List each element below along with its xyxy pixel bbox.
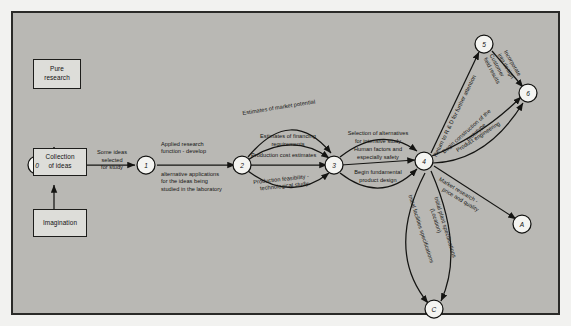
- edge-label-2-3-financing: Estimates of financing requirements: [252, 133, 324, 148]
- edge-label-3-4-selection: Selection of alternatives for intensive …: [338, 130, 418, 145]
- box-imagination-label: Imagination: [43, 219, 77, 228]
- node-label-A: A: [515, 217, 529, 231]
- node-label-2: 2: [235, 158, 249, 172]
- edge-label-0-1: Some ideas selected for study: [90, 149, 134, 172]
- node-label-5: 5: [477, 37, 491, 51]
- box-pure-research: Pure research: [33, 59, 81, 89]
- node-label-C: C: [427, 302, 441, 316]
- node-label-0: 0: [30, 158, 44, 172]
- node-label-4: 4: [417, 154, 431, 168]
- edge-label-3-4-product-design: Begin fundamental product design: [340, 169, 416, 184]
- diagram-sheet: Pure research Collection of ideas Imagin…: [13, 13, 558, 313]
- diagram-page: Pure research Collection of ideas Imagin…: [0, 0, 571, 326]
- node-label-3: 3: [327, 158, 341, 172]
- edge-label-1-2-bottom: alternative applications for the ideas b…: [161, 171, 222, 193]
- box-collection-of-ideas-label: Collection of ideas: [45, 153, 74, 170]
- box-pure-research-label: Pure research: [44, 65, 70, 82]
- edge-label-3-4-human-factors: Human factors and especially safety: [340, 146, 416, 161]
- node-label-1: 1: [139, 158, 153, 172]
- box-imagination: Imagination: [33, 209, 87, 237]
- edge-label-1-2-top: Applied research function - develop: [161, 141, 206, 156]
- node-label-6: 6: [521, 86, 535, 100]
- diagram-frame: Pure research Collection of ideas Imagin…: [11, 11, 560, 315]
- edge-label-2-3-production-cost: Production cost estimates: [251, 152, 316, 159]
